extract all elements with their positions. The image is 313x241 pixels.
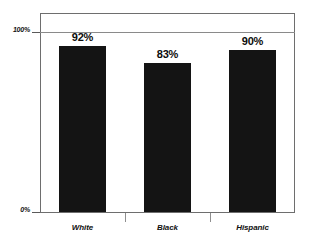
- category-label-black: Black: [126, 223, 210, 232]
- bar-black: [144, 63, 191, 212]
- y-axis-tick-0: [32, 212, 40, 213]
- bar-hispanic: [229, 50, 276, 212]
- y-axis-label-100: 100%: [0, 26, 30, 33]
- y-axis-label-0: 0%: [0, 206, 30, 213]
- category-divider-2: [210, 213, 211, 222]
- value-label-hispanic: 90%: [223, 35, 283, 47]
- category-label-white: White: [41, 223, 125, 232]
- category-label-hispanic: Hispanic: [211, 223, 295, 232]
- bar-chart: 100% 0% 92% 83% 90% White Black Hispanic: [0, 0, 313, 241]
- value-label-black: 83%: [138, 48, 198, 60]
- value-label-white: 92%: [53, 31, 113, 43]
- y-axis-tick-100: [32, 32, 40, 33]
- category-divider-1: [125, 213, 126, 222]
- bar-white: [59, 46, 106, 212]
